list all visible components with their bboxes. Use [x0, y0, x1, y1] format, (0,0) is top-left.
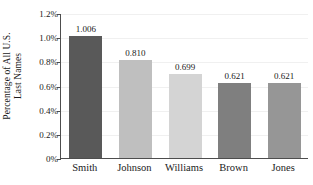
plot-area: 1.0060.8100.6990.6210.621: [60, 14, 308, 159]
bars: 1.0060.8100.6990.6210.621: [61, 14, 308, 158]
bar-group: 1.006: [69, 14, 102, 158]
y-axis-tick-mark: [57, 159, 61, 160]
bar: [69, 36, 102, 158]
x-axis-tick-label: Johnson: [117, 162, 151, 173]
bar-group: 0.621: [218, 14, 251, 158]
bar: [268, 83, 301, 158]
y-axis-tick-label: 0.8%: [39, 57, 58, 67]
bar-group: 0.810: [119, 14, 152, 158]
bar: [218, 83, 251, 158]
y-axis-tick-labels: 0%0.2%0.4%0.6%0.8%1.0%1.2%: [22, 14, 58, 159]
y-axis-tick-label: 1.0%: [39, 33, 58, 43]
bar: [119, 60, 152, 158]
y-axis-tick-label: 0.2%: [39, 130, 58, 140]
bar-value-label: 0.699: [175, 62, 195, 72]
bar: [169, 74, 202, 158]
bar-group: 0.699: [169, 14, 202, 158]
y-axis-tick-label: 0.4%: [39, 106, 58, 116]
y-axis-tick-label: 1.2%: [39, 9, 58, 19]
x-axis-tick-label: Williams: [165, 162, 203, 173]
y-axis-tick-label: 0.6%: [39, 82, 58, 92]
bar-value-label: 1.006: [76, 24, 96, 34]
bar-group: 0.621: [268, 14, 301, 158]
x-axis-tick-label: Jones: [272, 162, 295, 173]
x-axis-tick-label: Smith: [72, 162, 97, 173]
bar-value-label: 0.621: [224, 71, 244, 81]
x-axis-tick-labels: SmithJohnsonWilliamsBrownJones: [60, 162, 308, 178]
bar-chart: Percentage of All U.S. Last Names 0%0.2%…: [0, 0, 313, 185]
y-axis-title-line-1: Percentage of All U.S.: [2, 32, 14, 119]
bar-value-label: 0.810: [125, 48, 145, 58]
bar-value-label: 0.621: [274, 71, 294, 81]
x-axis-tick-label: Brown: [219, 162, 248, 173]
